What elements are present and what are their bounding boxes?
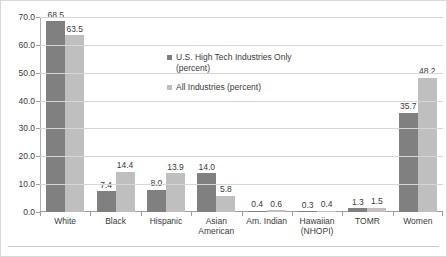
legend-item-all-industries: All Industries (percent): [167, 82, 292, 93]
y-tick-mark: [36, 73, 40, 74]
chart-legend: U.S. High Tech Industries Only (percent)…: [167, 52, 292, 101]
x-axis-label: Women: [393, 216, 443, 236]
bar-group: 1.31.5: [342, 17, 392, 212]
legend-label-series-1: All Industries (percent): [176, 82, 261, 93]
legend-label-series-0: U.S. High Tech Industries Only (percent): [176, 52, 292, 74]
bar: 63.5: [65, 35, 84, 212]
x-axis-label: Black: [90, 216, 140, 236]
legend-item-high-tech: U.S. High Tech Industries Only (percent): [167, 52, 292, 74]
x-axis-label: White: [40, 216, 90, 236]
x-axis-label: Hispanic: [141, 216, 191, 236]
x-axis-label-line: Women: [393, 216, 443, 226]
bar-value-label: 1.3: [352, 198, 364, 207]
x-axis-label: Am. Indian: [242, 216, 292, 236]
bar-value-label: 14.4: [117, 161, 134, 170]
grouped-bar-chart: 68.563.57.414.48.013.914.05.80.40.60.30.…: [0, 0, 447, 257]
bar-value-label: 14.0: [199, 163, 216, 172]
bar-value-label: 13.9: [167, 163, 184, 172]
gridline: [40, 128, 443, 129]
legend-swatch-icon-series-0: [167, 55, 172, 60]
x-axis-label-line: Asian: [191, 216, 241, 226]
y-tick-mark: [36, 17, 40, 18]
bar: 8.0: [147, 190, 166, 212]
x-axis-label: AsianAmerican: [191, 216, 241, 236]
y-tick-label: 30.0: [18, 124, 35, 133]
bar-value-label: 1.5: [371, 197, 383, 206]
bar-value-label: 0.6: [270, 200, 282, 209]
y-tick-mark: [36, 212, 40, 213]
bar: 5.8: [216, 196, 235, 212]
bar: 14.0: [197, 173, 216, 212]
bar-group: 0.30.4: [292, 17, 342, 212]
bar-value-label: 0.4: [321, 200, 333, 209]
bar: 7.4: [97, 191, 116, 212]
y-tick-label: 50.0: [18, 68, 35, 77]
x-axis-label-line: (NHOPI): [292, 226, 342, 236]
gridline: [40, 45, 443, 46]
x-axis-label-line: Am. Indian: [242, 216, 292, 226]
plot-area: 68.563.57.414.48.013.914.05.80.40.60.30.…: [40, 17, 443, 212]
y-tick-mark: [36, 184, 40, 185]
gridline: [40, 184, 443, 185]
bar-group: 14.05.8: [191, 17, 241, 212]
bar-value-label: 63.5: [66, 25, 83, 34]
x-axis-label-line: American: [191, 226, 241, 236]
x-axis-label-line: TOMR: [342, 216, 392, 226]
y-tick-label: 70.0: [18, 13, 35, 22]
gridline: [40, 212, 443, 213]
x-axis-label: TOMR: [342, 216, 392, 236]
bar-groups: 68.563.57.414.48.013.914.05.80.40.60.30.…: [40, 17, 443, 212]
y-tick-mark: [36, 101, 40, 102]
x-axis-label-line: White: [40, 216, 90, 226]
y-tick-mark: [36, 128, 40, 129]
x-axis-label: Hawaiian(NHOPI): [292, 216, 342, 236]
gridline: [40, 156, 443, 157]
bar-value-label: 7.4: [100, 181, 112, 190]
legend-swatch-icon-series-1: [167, 85, 172, 90]
x-axis-category-labels: WhiteBlackHispanicAsianAmericanAm. India…: [40, 216, 443, 236]
bar-group: 7.414.4: [90, 17, 140, 212]
bottom-divider: [8, 246, 439, 247]
bar-value-label: 0.3: [302, 201, 314, 210]
x-axis-label-line: Hispanic: [141, 216, 191, 226]
bar-value-label: 48.2: [419, 67, 436, 76]
bar: 14.4: [116, 172, 135, 212]
y-tick-mark: [36, 156, 40, 157]
y-tick-label: 20.0: [18, 152, 35, 161]
bar: 13.9: [166, 173, 185, 212]
bar-group: 8.013.9: [141, 17, 191, 212]
y-tick-label: 10.0: [18, 180, 35, 189]
bar: 48.2: [418, 78, 437, 212]
bar-group: 68.563.5: [40, 17, 90, 212]
y-tick-mark: [36, 45, 40, 46]
gridline: [40, 17, 443, 18]
bar-group: 35.748.2: [393, 17, 443, 212]
y-tick-label: 40.0: [18, 96, 35, 105]
bar-value-label: 0.4: [251, 200, 263, 209]
y-tick-label: 60.0: [18, 41, 35, 50]
bar-group: 0.40.6: [242, 17, 292, 212]
x-axis-label-line: Hawaiian: [292, 216, 342, 226]
x-axis-label-line: Black: [90, 216, 140, 226]
bar-value-label: 5.8: [220, 185, 232, 194]
bar-value-label: 35.7: [400, 102, 417, 111]
y-tick-label: 0.0: [23, 208, 35, 217]
